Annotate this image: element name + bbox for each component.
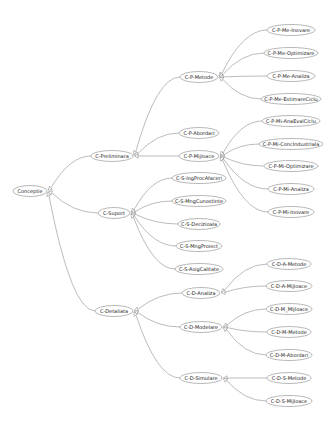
node-c-p-mijloace[interactable]: C-P-Mijloace <box>179 151 219 162</box>
node-c-d-modelare[interactable]: C-D-Modelare <box>180 322 222 333</box>
node-label: C-P-Mijloace <box>184 153 214 160</box>
generalization-edge <box>138 133 179 154</box>
generalization-edge <box>225 286 266 292</box>
node-label: C-D-M_Mijloace <box>270 306 308 313</box>
generalization-edge <box>136 77 180 151</box>
node-label: Conceptie <box>17 188 42 195</box>
node-c-detaliata[interactable]: C-Detaliata <box>95 306 133 317</box>
node-c-d-m-mijloace[interactable]: C-D-M_Mijloace <box>266 304 312 315</box>
node-c-p-me-optimizare[interactable]: C-P-Me-Optimizare <box>264 48 318 59</box>
generalization-edge <box>227 328 267 332</box>
node-c-s-ingprocafaceri[interactable]: C-S-IngProcAfaceri <box>172 173 226 184</box>
node-label: C-P-Me-Inovare <box>272 27 310 33</box>
node-c-preliminara[interactable]: C-Preliminara <box>91 151 133 162</box>
node-c-d-a-mijloace[interactable]: C-D-A-Mijloace <box>266 281 312 292</box>
generalization-edge <box>52 193 98 213</box>
generalization-edge <box>136 316 180 378</box>
edges-layer <box>47 30 268 401</box>
node-c-suport[interactable]: C-Suport <box>98 208 130 219</box>
node-c-p-mi-analiza[interactable]: C-P-Mi-Analiza <box>268 184 314 195</box>
node-c-p-me-estimareciclu[interactable]: C-P-Me-EstimareCiclu <box>261 94 321 105</box>
generalization-edge <box>227 381 266 401</box>
generalization-edge <box>222 30 267 73</box>
node-label: C-Detaliata <box>100 308 128 314</box>
node-label: C-P-Me-Analiza <box>272 73 309 79</box>
node-c-d-a-metode[interactable]: C-D-A-Metode <box>267 259 311 270</box>
node-label: C-D-A-Metode <box>272 261 307 267</box>
node-c-p-mi-anaevalciclu[interactable]: C-P-Mi-AnaEvalCiclu <box>262 116 320 127</box>
node-label: C-D-M-Abordari <box>270 352 308 358</box>
generalization-edge <box>223 80 261 99</box>
node-label: C-P-Mi-Analiza <box>273 186 309 192</box>
node-label: C-P-Metode <box>185 74 214 80</box>
node-label: C-Suport <box>103 210 125 217</box>
node-label: C-D-A-Mijloace <box>271 283 307 290</box>
node-c-p-abordari[interactable]: C-P-Abordari <box>179 128 219 139</box>
generalization-edge <box>134 178 172 209</box>
node-c-d-s-mijloace[interactable]: C-D-S-Mijloace <box>266 396 312 407</box>
generalization-edge <box>227 309 266 325</box>
generalization-edge <box>138 293 182 309</box>
node-c-p-mi-optimizare[interactable]: C-P-Mi-Optimizare <box>264 161 318 172</box>
node-label: C-D-Modelare <box>184 324 218 330</box>
generalization-edge <box>134 216 176 246</box>
node-c-d-s-metode[interactable]: C-D-S-Metode <box>267 373 311 384</box>
node-label: C-D-M-Metode <box>271 329 307 335</box>
node-c-s-mngcunostinte[interactable]: C-S-MngCunostinte <box>172 196 226 207</box>
generalization-edge <box>51 156 91 188</box>
generalization-edge <box>138 313 180 327</box>
generalization-edge <box>224 144 259 154</box>
generalization-edge <box>223 160 268 212</box>
node-c-s-decizionala[interactable]: C-S-Decizioala <box>178 219 220 230</box>
node-label: C-S-AsigCalitate <box>179 266 219 273</box>
node-label: C-D-S-Mijloace <box>271 398 307 405</box>
node-label: C-P-Mi-Optimizare <box>268 163 313 170</box>
node-c-p-mi-concindustriala[interactable]: C-P-Mi-ConcIndustriala <box>259 139 323 150</box>
node-label: C-P-Me-EstimareCiclu <box>264 96 317 102</box>
node-label: C-Preliminara <box>95 153 129 159</box>
node-label: C-P-Mi-AnaEvalCiclu <box>266 118 316 124</box>
node-label: C-P-Mi-Inovare <box>273 209 309 215</box>
node-c-d-simulare[interactable]: C-D-Simulare <box>180 373 222 384</box>
node-label: C-P-Me-Optimizare <box>268 50 315 57</box>
generalization-edge <box>227 330 266 355</box>
node-label: C-D-Analiza <box>187 290 216 296</box>
generalization-edge <box>135 201 172 211</box>
node-label: C-S-IngProcAfaceri <box>176 175 222 182</box>
node-label: C-S-MngProiect <box>180 243 218 250</box>
node-c-p-mi-inovare[interactable]: C-P-Mi-Inovare <box>268 207 314 218</box>
node-conceptie[interactable]: Conceptie <box>13 186 47 197</box>
node-c-p-metode[interactable]: C-P-Metode <box>180 72 218 83</box>
node-label: C-D-S-Metode <box>272 375 307 381</box>
generalization-edge <box>49 196 95 311</box>
node-c-s-mngproiect[interactable]: C-S-MngProiect <box>176 241 222 252</box>
node-c-d-m-metode[interactable]: C-D-M-Metode <box>267 327 311 338</box>
generalization-edge <box>224 159 268 189</box>
node-label: C-S-MngCunostinte <box>175 198 223 205</box>
node-label: C-D-Simulare <box>184 375 217 381</box>
node-c-p-me-analiza[interactable]: C-P-Me-Analiza <box>267 71 315 82</box>
node-c-d-analiza[interactable]: C-D-Analiza <box>182 288 220 299</box>
node-label: C-P-Abordari <box>183 130 214 136</box>
generalization-edge <box>223 121 262 153</box>
diagram-canvas: ConceptieC-PreliminaraC-SuportC-Detaliat… <box>0 0 333 423</box>
generalization-edge <box>223 53 264 74</box>
node-c-d-m-abordari[interactable]: C-D-M-Abordari <box>266 350 312 361</box>
node-c-p-me-inovare[interactable]: C-P-Me-Inovare <box>267 25 315 36</box>
node-label: C-P-Mi-ConcIndustriala <box>263 141 320 147</box>
generalization-edge <box>223 76 267 77</box>
generalization-edge <box>135 214 178 224</box>
generalization-edge <box>133 217 175 269</box>
node-c-s-asigcalitate[interactable]: C-S-AsigCalitate <box>175 264 223 275</box>
node-label: C-S-Decizioala <box>181 221 217 227</box>
generalization-edge <box>224 157 264 166</box>
